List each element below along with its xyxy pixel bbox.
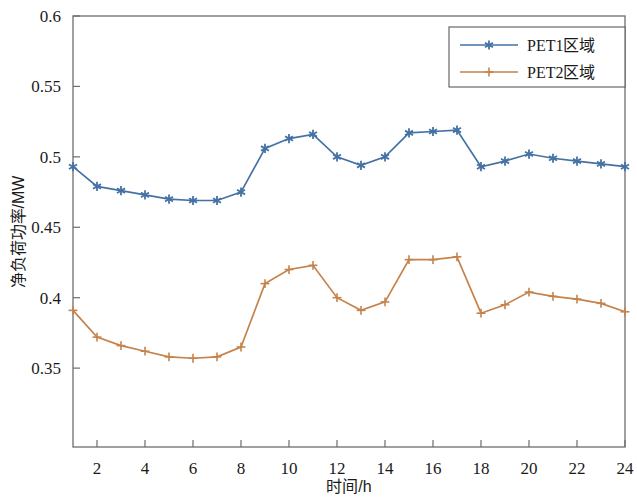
series-2 [69,252,630,362]
x-tick-label: 18 [473,459,490,478]
data-point-marker [261,279,270,288]
data-point-marker [165,352,174,361]
series-1 [69,125,629,205]
x-tick-label: 14 [377,459,395,478]
data-point-marker [429,255,438,264]
y-tick-label: 0.4 [40,289,62,308]
data-point-marker [525,288,534,297]
data-point-marker [501,300,510,309]
x-tick-label: 20 [521,459,538,478]
series-polyline [73,130,625,200]
x-tick-label: 16 [425,459,442,478]
data-series-group [69,125,630,362]
x-tick-label: 6 [189,459,198,478]
legend-label: PET1区域 [527,37,595,54]
legend-label: PET2区域 [527,64,595,81]
data-point-marker [621,307,630,316]
data-point-marker [477,309,486,318]
y-tick-label: 0.5 [40,148,61,167]
y-axis-tick-labels: 0.350.40.450.50.550.6 [31,7,61,378]
x-tick-label: 10 [281,459,298,478]
y-tick-label: 0.35 [31,359,61,378]
data-point-marker [573,295,582,304]
data-point-marker [357,161,365,170]
x-axis-tick-labels: 24681012141618202224 [93,459,634,478]
y-tick-label: 0.45 [31,218,61,237]
data-point-marker [405,255,414,264]
data-point-marker [261,144,269,153]
data-point-marker [453,252,462,261]
data-point-marker [549,292,558,301]
y-tick-label: 0.55 [31,77,61,96]
chart-figure: 0.350.40.450.50.550.6 246810121416182022… [0,0,637,503]
x-tick-label: 24 [617,459,635,478]
data-point-marker [285,265,294,274]
x-tick-label: 12 [329,459,346,478]
x-axis-title: 时间/h [326,478,371,495]
data-point-marker [237,343,246,352]
chart-legend: PET1区域PET2区域 [449,27,625,87]
x-tick-label: 2 [93,459,102,478]
data-point-marker [141,347,150,356]
data-point-marker [237,187,245,196]
line-chart: 0.350.40.450.50.550.6 246810121416182022… [0,0,637,503]
data-point-marker [213,352,222,361]
x-tick-label: 4 [141,459,150,478]
x-tick-label: 8 [237,459,246,478]
data-point-marker [597,299,606,308]
x-tick-label: 22 [569,459,586,478]
y-tick-label: 0.6 [40,7,61,26]
data-point-marker [357,306,366,315]
y-axis-title: 净负荷功率/MW [10,175,27,289]
data-point-marker [189,354,198,363]
data-point-marker [117,341,126,350]
data-point-marker [381,298,390,307]
series-polyline [73,257,625,358]
